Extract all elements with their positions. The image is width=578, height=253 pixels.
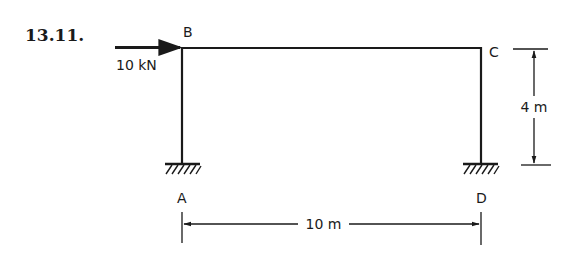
frame-members: [181, 47, 482, 164]
span-dimension-label: 10 m: [306, 216, 342, 232]
joint-label-a: A: [177, 190, 187, 206]
height-dimension-label: 4 m: [521, 99, 548, 115]
fixed-support-d-icon: [463, 164, 499, 174]
portal-frame-diagram: 13.11. 10 kN B C: [0, 0, 578, 253]
joint-label-c: C: [489, 44, 499, 60]
fixed-support-a-icon: [165, 164, 201, 174]
load-label: 10 kN: [116, 57, 157, 73]
joint-label-d: D: [476, 190, 487, 206]
joint-label-b: B: [183, 24, 193, 40]
problem-number: 13.11.: [25, 25, 84, 45]
